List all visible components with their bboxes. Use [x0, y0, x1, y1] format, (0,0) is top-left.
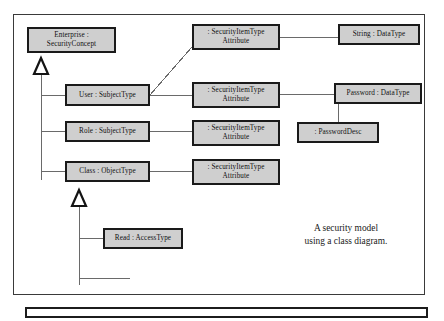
class-node-string-datatype[interactable]: String : DataType [338, 24, 420, 45]
class-node-read[interactable]: Read : AccessType [103, 228, 183, 249]
class-node-enterprise[interactable]: Enterprise : SecurityConcept [27, 27, 116, 53]
class-node-attribute-bottom[interactable]: : SecurityItemType Attribute [192, 159, 280, 185]
class-node-label: : SecurityItemType Attribute [206, 124, 267, 142]
class-node-user[interactable]: User : SubjectType [65, 84, 150, 106]
page-bottom-bar [25, 307, 428, 318]
class-node-label: : SecurityItemType Attribute [206, 86, 267, 104]
diagram-frame [13, 14, 425, 295]
class-node-label: User : SubjectType [77, 91, 138, 100]
class-node-label: String : DataType [351, 30, 408, 39]
class-node-label: : SecurityItemType Attribute [206, 163, 267, 181]
class-node-class[interactable]: Class : ObjectType [65, 161, 150, 182]
class-node-label: Password : DataType [345, 89, 412, 98]
class-node-label: Class : ObjectType [77, 167, 137, 176]
class-node-role[interactable]: Role : SubjectType [65, 121, 150, 142]
class-node-label: : SecurityItemType Attribute [206, 28, 267, 46]
class-node-password-datatype[interactable]: Password : DataType [334, 83, 422, 104]
class-node-label: Enterprise : SecurityConcept [45, 31, 98, 49]
class-node-attribute-mid[interactable]: : SecurityItemType Attribute [192, 82, 280, 108]
class-node-label: : PasswordDesc [312, 128, 363, 137]
class-node-attribute-low[interactable]: : SecurityItemType Attribute [192, 120, 280, 146]
class-node-label: Read : AccessType [113, 234, 173, 243]
class-node-label: Role : SubjectType [77, 127, 138, 136]
class-node-attribute-top[interactable]: : SecurityItemType Attribute [192, 24, 280, 50]
figure-caption: A security model using a class diagram. [283, 222, 409, 247]
class-node-password-desc[interactable]: : PasswordDesc [297, 122, 379, 143]
figure-page: Enterprise : SecurityConcept User : Subj… [0, 0, 444, 321]
